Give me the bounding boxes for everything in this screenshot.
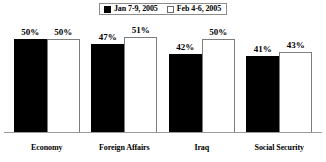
bar[interactable] (202, 39, 235, 133)
x-tick-economy: Economy (14, 136, 80, 158)
x-tick-iraq: Iraq (169, 136, 235, 158)
bar-slot: 50% (14, 20, 47, 133)
bar-group-social-security: 41% 43% (246, 20, 312, 133)
x-axis-line (4, 132, 322, 133)
bar[interactable] (124, 37, 157, 133)
x-tick-social-security: Social Security (246, 136, 312, 158)
bar-group-economy: 50% 50% (14, 20, 80, 133)
bar-value-label: 41% (254, 45, 272, 54)
x-tick-label: Social Security (255, 143, 304, 152)
bar-slot: 50% (47, 20, 80, 133)
legend-entry-feb[interactable]: Feb 4-6, 2005 (167, 5, 221, 13)
bar-value-label: 47% (99, 33, 117, 42)
legend-entry-jan[interactable]: Jan 7-9, 2005 (104, 5, 158, 13)
bar[interactable] (47, 39, 80, 133)
bar[interactable] (279, 52, 312, 133)
bar-value-label: 50% (54, 28, 72, 37)
bar-slot: 47% (91, 20, 124, 133)
bar[interactable] (91, 44, 124, 133)
legend-label-feb: Feb 4-6, 2005 (177, 5, 221, 13)
bar-value-label: 42% (176, 43, 194, 52)
bar-slot: 51% (124, 20, 157, 133)
bar-group-iraq: 42% 50% (169, 20, 235, 133)
x-tick-foreign-affairs: Foreign Affairs (91, 136, 157, 158)
bar-slot: 42% (169, 20, 202, 133)
chart-plot-area: 50% 50% 47% 51% 42% 50% (0, 20, 326, 133)
x-tick-label: Foreign Affairs (99, 143, 150, 152)
bar[interactable] (246, 56, 279, 133)
bar-value-label: 50% (209, 28, 227, 37)
x-tick-label: Economy (31, 143, 62, 152)
bar[interactable] (169, 54, 202, 133)
bar-value-label: 43% (287, 41, 305, 50)
chart-legend: Jan 7-9, 2005 Feb 4-6, 2005 (0, 3, 326, 15)
bar-group-foreign-affairs: 47% 51% (91, 20, 157, 133)
bar-value-label: 51% (132, 26, 150, 35)
bar-slot: 50% (202, 20, 235, 133)
legend-swatch-filled-icon (104, 6, 111, 13)
x-axis-tick-labels: Economy Foreign Affairs Iraq Social Secu… (0, 136, 326, 158)
x-tick-label: Iraq (194, 143, 209, 152)
bar-slot: 41% (246, 20, 279, 133)
bar-value-label: 50% (21, 28, 39, 37)
bar-groups: 50% 50% 47% 51% 42% 50% (0, 20, 326, 133)
legend-label-jan: Jan 7-9, 2005 (114, 5, 158, 13)
legend-swatch-hollow-icon (167, 6, 174, 13)
bar[interactable] (14, 39, 47, 133)
legend-box: Jan 7-9, 2005 Feb 4-6, 2005 (99, 3, 227, 15)
bar-slot: 43% (279, 20, 312, 133)
